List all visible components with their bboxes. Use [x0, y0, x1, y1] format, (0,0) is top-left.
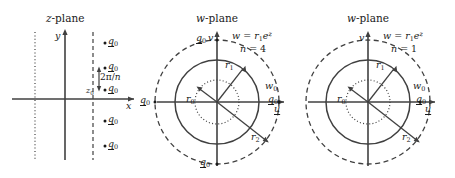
charge-label-3: q0: [108, 83, 118, 94]
z-plane-title: z-plane: [46, 13, 84, 24]
y-axis-arrowhead: [62, 29, 67, 35]
charge-dot-5: [104, 145, 107, 148]
charge-label-left: q0: [140, 95, 150, 106]
v-axis-arrowhead: [365, 31, 370, 37]
equation-label: w = r1ez: [232, 31, 272, 42]
z0-label: z0: [86, 87, 94, 96]
charge-label-right: q0: [268, 94, 278, 105]
radius-label-r1: r1: [225, 60, 234, 71]
w-plane-n4-title: w-plane: [196, 13, 238, 24]
n-value-label: n = 4: [240, 44, 266, 54]
charge-label-5: q0: [108, 139, 118, 150]
panel-w-plane-n4: w-plane v u w = r1ez n = 4 r0 r1 r2 w0 q…: [152, 0, 304, 178]
radius-label-r0: r0: [337, 94, 346, 105]
x-axis-label: x: [126, 101, 131, 111]
image-point-label: w0: [265, 81, 277, 92]
radius-label-r1: r1: [376, 60, 385, 71]
charge-label-top: q0: [196, 33, 206, 44]
spacing-annotation-label: 2π/n: [100, 73, 120, 82]
radius-label-r2: r2: [402, 132, 411, 143]
spacing-arrow-head-down: [97, 86, 101, 92]
z-plane-canvas: [0, 0, 152, 178]
panel-w-plane-n1: w-plane v u w = r1ez n = 1 r0 r1 r2 w0 q…: [303, 0, 455, 178]
equation-label: w = r1ez: [383, 31, 423, 42]
image-point-label: w0: [413, 81, 425, 92]
radius-arrow-r1-shaft: [368, 69, 394, 102]
charge-label-1: q0: [108, 36, 118, 47]
radius-arrow-r0-shaft: [350, 89, 368, 102]
n-value-label: n = 1: [391, 44, 417, 54]
v-axis-label: v: [208, 33, 213, 43]
charge-dot-left: [154, 101, 157, 104]
w-plane-n1-canvas: [303, 0, 455, 178]
figure-root: z-plane x y z0 2π/n q0 q0 q0 q0 q0: [0, 0, 455, 178]
charge-dot-3: [104, 89, 107, 92]
charge-label-right: q0: [416, 94, 426, 105]
radius-label-r0: r0: [186, 94, 195, 105]
charge-dot-2: [104, 67, 107, 70]
v-axis-label: v: [359, 33, 364, 43]
w-plane-n1-title: w-plane: [347, 13, 389, 24]
charge-dot-bottom: [216, 163, 219, 166]
charge-dot-top: [216, 39, 219, 42]
panel-z-plane: z-plane x y z0 2π/n q0 q0 q0 q0 q0: [0, 0, 152, 178]
radius-label-r2: r2: [251, 132, 260, 143]
charge-label-bottom: q0: [200, 157, 210, 168]
charge-dot-1: [104, 42, 107, 45]
w-plane-n4-canvas: [152, 0, 304, 178]
radius-arrow-r1-shaft: [217, 69, 243, 102]
charge-dot-4: [104, 120, 107, 123]
y-axis-label: y: [55, 31, 60, 41]
charge-label-4: q0: [108, 114, 118, 125]
v-axis-arrowhead: [214, 31, 219, 37]
charge-label-2: q0: [108, 61, 118, 72]
radius-arrow-r0-shaft: [199, 89, 217, 102]
